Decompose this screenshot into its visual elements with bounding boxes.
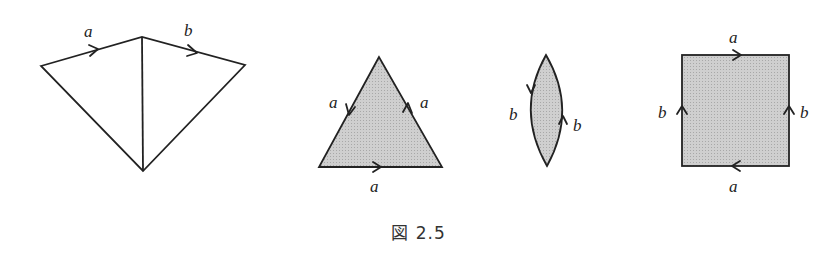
square-shape [682, 55, 789, 166]
square-label-top: a [729, 28, 738, 47]
lens-label-left: b [509, 105, 518, 124]
square-label-bottom: a [729, 177, 738, 196]
square-figure: a a b b [658, 28, 809, 196]
triangle-figure: a a a [319, 57, 442, 196]
triangle-label-bottom: a [370, 177, 379, 196]
lens-label-right: b [573, 116, 582, 135]
kite-diagonal [142, 37, 143, 171]
lens-shape [531, 55, 563, 166]
triangle-shape [319, 57, 442, 167]
kite-label-b: b [184, 21, 193, 40]
square-label-right: b [800, 103, 809, 122]
triangle-label-right: a [420, 93, 429, 112]
lens-figure: b b [509, 55, 582, 166]
figure-caption: 図 2.5 [0, 219, 837, 244]
kite-figure: a b [41, 21, 245, 171]
square-label-left: b [658, 103, 667, 122]
triangle-label-left: a [329, 93, 338, 112]
kite-label-a: a [84, 22, 93, 41]
